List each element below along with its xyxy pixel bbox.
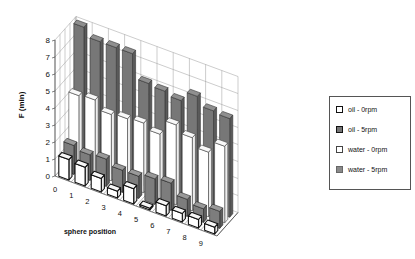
legend-swatch-icon: [336, 146, 343, 153]
bar-oil-0rpm-0: [59, 152, 72, 180]
bar-oil-0rpm-1: [75, 160, 88, 186]
bar-oil-0rpm-2: [91, 171, 104, 192]
svg-text:2: 2: [85, 197, 89, 206]
legend-swatch-icon: [336, 106, 343, 113]
svg-text:5: 5: [134, 215, 138, 224]
svg-text:2: 2: [46, 138, 51, 147]
svg-text:4: 4: [46, 104, 51, 113]
legend-label: water - 5rpm: [348, 166, 387, 173]
svg-text:F (min): F (min): [17, 91, 26, 118]
legend-swatch-icon: [336, 166, 343, 173]
svg-text:8: 8: [46, 36, 51, 45]
svg-text:1: 1: [46, 155, 51, 164]
chart-legend: oil - 0rpm oil - 5rpm water - 0rpm water…: [329, 96, 411, 190]
svg-text:0: 0: [46, 172, 51, 181]
svg-text:6: 6: [46, 70, 51, 79]
svg-text:3: 3: [102, 203, 106, 212]
legend-item-oil-0rpm: oil - 0rpm: [336, 106, 377, 113]
legend-label: oil - 0rpm: [348, 106, 377, 113]
svg-text:7: 7: [46, 53, 51, 62]
svg-text:6: 6: [150, 221, 154, 230]
bar-oil-5rpm-5: [145, 172, 158, 205]
bar-oil-0rpm-4: [124, 182, 137, 205]
legend-label: water - 0rpm: [348, 146, 387, 153]
svg-text:1: 1: [69, 191, 73, 200]
legend-label: oil - 5rpm: [348, 126, 377, 133]
svg-text:9: 9: [199, 239, 203, 248]
legend-item-water-5rpm: water - 5rpm: [336, 166, 387, 173]
svg-text:7: 7: [166, 227, 170, 236]
svg-text:4: 4: [118, 209, 122, 218]
bar-oil-0rpm-6: [156, 199, 169, 216]
svg-text:0: 0: [53, 185, 57, 194]
svg-text:8: 8: [183, 233, 187, 242]
bar-chart-3d: 012345678F (min)0123456789sphere positio…: [0, 0, 300, 259]
svg-text:3: 3: [46, 121, 51, 130]
legend-item-oil-5rpm: oil - 5rpm: [336, 126, 377, 133]
svg-text:5: 5: [46, 87, 51, 96]
legend-item-water-0rpm: water - 0rpm: [336, 146, 387, 153]
legend-swatch-icon: [336, 126, 343, 133]
svg-text:sphere position: sphere position: [64, 228, 116, 236]
